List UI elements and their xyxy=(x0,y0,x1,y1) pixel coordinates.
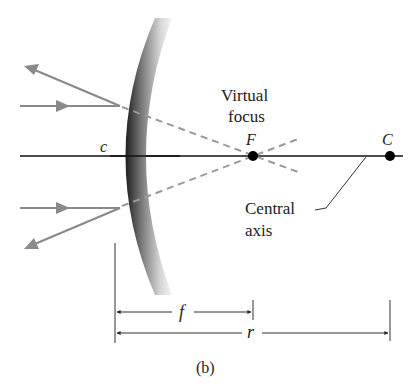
upper-virtual-ray xyxy=(122,107,298,172)
vertex-label: c xyxy=(100,138,107,155)
focal-length-label: f xyxy=(179,302,187,322)
center-point xyxy=(385,151,395,161)
virtual-focus-label-line1: Virtual xyxy=(221,86,268,105)
central-axis-label-line1: Central xyxy=(245,199,295,218)
upper-reflected-ray xyxy=(30,68,120,106)
lower-virtual-ray xyxy=(122,139,298,206)
lower-incident-arrow-icon xyxy=(56,202,70,214)
central-axis-leader-line xyxy=(315,157,366,210)
upper-incident-arrow-icon xyxy=(56,100,70,112)
convex-mirror-diagram: c F C Virtual focus Central axis f r (b) xyxy=(0,0,409,386)
radius-label: r xyxy=(247,322,255,342)
central-axis-label-line2: axis xyxy=(245,221,272,240)
lower-reflected-ray xyxy=(30,208,120,246)
focus-point xyxy=(248,151,258,161)
center-label: C xyxy=(382,131,393,148)
panel-label: (b) xyxy=(196,359,215,377)
virtual-focus-label-line2: focus xyxy=(228,107,265,126)
upper-reflected-arrow-icon xyxy=(24,64,39,75)
focus-label: F xyxy=(245,131,256,148)
